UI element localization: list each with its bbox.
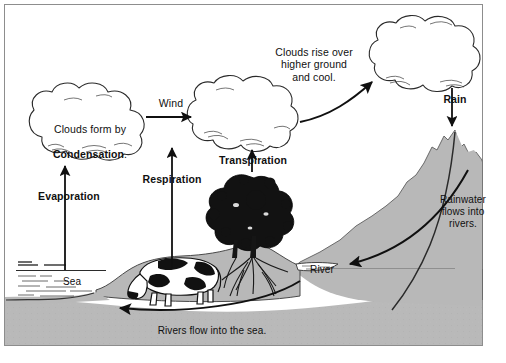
label-rivers-flow: Rivers flow into the sea. bbox=[132, 325, 292, 337]
label-respiration: Respiration bbox=[128, 173, 216, 185]
label-river: River bbox=[300, 264, 344, 276]
cloud-right-outline bbox=[369, 16, 480, 92]
label-wind: Wind bbox=[148, 97, 194, 109]
label-sea: Sea bbox=[56, 276, 88, 288]
cloud-rain bbox=[369, 16, 480, 92]
label-condensation-line1: Clouds form by bbox=[54, 123, 126, 135]
diagram-canvas bbox=[0, 0, 506, 363]
water-cycle-diagram: Clouds form by Condensation. Wind Clouds… bbox=[0, 0, 506, 363]
label-condensation-term: Condensation bbox=[53, 148, 124, 160]
label-condensation-period: . bbox=[124, 148, 127, 160]
label-clouds-rise: Clouds rise over higher ground and cool. bbox=[264, 46, 364, 83]
label-evaporation: Evaporation bbox=[22, 190, 116, 202]
cloud-middle bbox=[187, 76, 298, 152]
label-rainwater: Rainwater flows into rivers. bbox=[432, 194, 494, 229]
label-condensation: Clouds form by Condensation. bbox=[36, 111, 144, 161]
label-transpiration: Transpiration bbox=[198, 154, 308, 166]
label-rain: Rain bbox=[432, 93, 478, 105]
